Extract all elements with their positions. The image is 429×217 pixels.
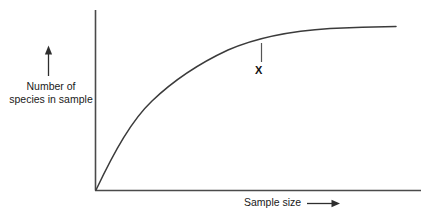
y-axis-label-line-2: species in sample [8,93,94,106]
y-label-arrow-head-icon [45,46,52,55]
x-axis-label: Sample size [244,196,301,209]
annotation-label-x: X [255,64,262,76]
y-axis-label-line-1: Number of [8,80,94,93]
y-axis-label: Number of species in sample [8,80,94,105]
plot-area [0,0,429,217]
species-accumulation-curve [96,27,396,190]
species-accumulation-figure: Number of species in sample Sample size … [0,0,429,217]
x-label-arrow-head-icon [332,200,341,207]
